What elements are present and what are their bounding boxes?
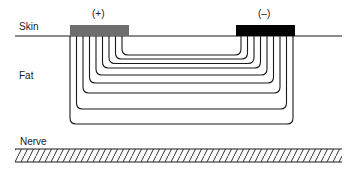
current-path-line bbox=[70, 36, 293, 124]
nerve-band bbox=[15, 149, 342, 162]
current-path-line bbox=[122, 36, 241, 55]
electrode-diagram bbox=[0, 0, 347, 172]
current-path-line bbox=[77, 36, 287, 109]
current-path-line bbox=[83, 36, 280, 93]
cathode-electrode bbox=[236, 25, 295, 36]
current-paths bbox=[70, 36, 293, 124]
anode-electrode bbox=[70, 25, 129, 36]
